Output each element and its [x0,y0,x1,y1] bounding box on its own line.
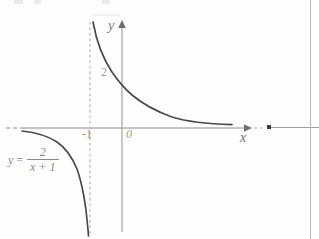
margin-rule [268,127,319,128]
y-axis-arrowhead [118,20,126,28]
fraction-numerator: 2 [37,146,49,159]
equation-equals: = [16,154,23,166]
x-tick-label-neg-one: -1 [82,128,92,140]
hyperbola-plot [0,0,319,239]
graph-figure: y x 0 -1 2 y = 2 x + 1 [0,0,319,239]
equation-lhs: y [8,154,13,166]
y-axis-label: y [108,19,114,33]
x-axis-label: x [240,131,246,145]
page-border-line [310,0,311,239]
x-axis [6,124,262,132]
y-tick-label-two: 2 [101,66,107,78]
equation-fraction: 2 x + 1 [27,146,58,173]
equation-label: y = 2 x + 1 [8,146,59,173]
curve-right-branch [93,22,232,125]
y-axis [118,20,126,232]
origin-label: 0 [126,128,132,140]
margin-marker-dot [267,125,271,129]
fraction-denominator: x + 1 [27,160,58,173]
